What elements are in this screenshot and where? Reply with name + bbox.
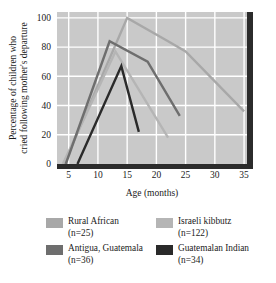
legend-text-block: Israeli kibbutz (n=122) [178, 216, 231, 239]
x-axis-title: Age (months) [126, 188, 179, 199]
axis-right-rule [247, 12, 253, 169]
x-tick-label: 10 [93, 170, 103, 180]
legend-text-block: Antigua, Guatemala (n=36) [68, 243, 143, 266]
y-tick-label: 0 [46, 159, 51, 169]
legend-text-block: Rural African (n=25) [68, 216, 119, 239]
legend-item-guatemalan-indian: Guatemalan Indian (n=34) [156, 243, 268, 266]
y-tick-label: 40 [42, 101, 52, 111]
y-axis-tick-labels: 020406080100 [37, 13, 52, 169]
x-tick-label: 5 [66, 170, 71, 180]
legend-sample-size: (n=25) [68, 228, 119, 240]
legend-swatch-icon [46, 218, 63, 228]
x-tick-label: 30 [210, 170, 220, 180]
legend-label: Guatemalan Indian [178, 243, 249, 255]
legend-item-rural-african: Rural African (n=25) [46, 216, 152, 239]
x-tick-label: 20 [152, 170, 162, 180]
x-tick-label: 35 [239, 170, 249, 180]
x-tick-label: 25 [181, 170, 191, 180]
legend-label: Israeli kibbutz [178, 216, 231, 228]
legend-item-israeli-kibbutz: Israeli kibbutz (n=122) [156, 216, 268, 239]
legend-item-antigua-guatemala: Antigua, Guatemala (n=36) [46, 243, 152, 266]
chart-figure: 5101520253035 020406080100 Age (months) … [0, 0, 276, 283]
legend-sample-size: (n=34) [178, 255, 249, 267]
y-axis-title-line-1: Percentage of children who [8, 36, 18, 140]
plot-background [57, 12, 247, 164]
axis-bottom-rule [57, 164, 253, 169]
legend-text-block: Guatemalan Indian (n=34) [178, 243, 249, 266]
legend-sample-size: (n=36) [68, 255, 143, 267]
legend-label: Antigua, Guatemala [68, 243, 143, 255]
y-axis-title-line-2: cried following mother's departure [19, 22, 29, 153]
legend-label: Rural African [68, 216, 119, 228]
y-tick-label: 20 [42, 130, 52, 140]
chart-legend: Rural African (n=25) Israeli kibbutz (n=… [46, 216, 270, 266]
x-axis-tick-labels: 5101520253035 [66, 170, 249, 180]
y-tick-label: 100 [37, 13, 52, 23]
x-tick-label: 15 [122, 170, 132, 180]
y-tick-label: 80 [42, 42, 52, 52]
legend-swatch-icon [156, 245, 173, 255]
legend-swatch-icon [46, 245, 63, 255]
legend-swatch-icon [156, 218, 173, 228]
legend-sample-size: (n=122) [178, 228, 231, 240]
y-tick-label: 60 [42, 72, 52, 82]
